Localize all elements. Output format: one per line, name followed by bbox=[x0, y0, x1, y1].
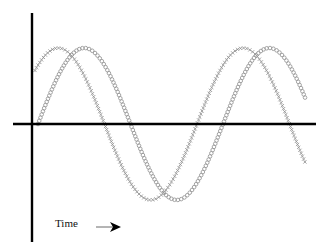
cross-marker bbox=[91, 92, 94, 95]
cross-marker bbox=[281, 104, 284, 107]
sine-wave-diagram bbox=[0, 0, 324, 251]
cross-marker bbox=[80, 69, 83, 72]
cross-marker bbox=[248, 48, 251, 51]
cross-marker bbox=[60, 47, 63, 50]
cross-marker bbox=[239, 47, 242, 50]
cross-marker bbox=[206, 95, 209, 98]
cross-marker bbox=[260, 60, 263, 63]
cross-marker bbox=[113, 149, 116, 152]
cross-marker bbox=[294, 137, 297, 140]
cross-marker bbox=[291, 131, 294, 134]
cross-marker bbox=[93, 98, 96, 101]
cross-marker bbox=[204, 101, 207, 104]
cross-marker bbox=[57, 46, 60, 49]
cross-marker bbox=[278, 98, 281, 101]
cross-marker bbox=[54, 47, 57, 50]
cross-marker bbox=[202, 106, 205, 109]
cross-marker bbox=[191, 133, 194, 136]
cross-marker bbox=[277, 95, 280, 98]
cross-marker bbox=[81, 72, 84, 75]
cross-marker bbox=[76, 63, 79, 66]
cross-marker bbox=[265, 69, 268, 72]
cross-marker bbox=[97, 107, 100, 110]
cross-marker bbox=[287, 119, 290, 122]
cross-marker bbox=[297, 146, 300, 149]
cross-marker bbox=[200, 109, 203, 112]
cross-marker bbox=[112, 146, 115, 149]
cross-marker bbox=[100, 116, 103, 119]
cross-marker bbox=[173, 175, 176, 178]
cross-marker bbox=[295, 140, 298, 143]
cross-marker bbox=[107, 134, 110, 137]
cross-marker bbox=[258, 58, 261, 61]
cross-marker bbox=[99, 113, 102, 116]
time-label: Time bbox=[55, 217, 78, 229]
cross-marker bbox=[185, 148, 188, 151]
cross-marker bbox=[166, 186, 169, 189]
cross-marker bbox=[245, 47, 248, 50]
cross-marker bbox=[280, 101, 283, 104]
cross-marker bbox=[290, 128, 293, 131]
cross-marker bbox=[198, 115, 201, 118]
cross-marker bbox=[268, 75, 271, 78]
cross-marker bbox=[289, 125, 292, 128]
cross-marker bbox=[183, 154, 186, 157]
cross-marker bbox=[190, 136, 193, 139]
cross-marker bbox=[242, 46, 245, 49]
cross-marker bbox=[170, 180, 173, 183]
cross-marker bbox=[148, 198, 151, 201]
cross-marker bbox=[194, 127, 197, 130]
time-arrow-icon bbox=[96, 222, 121, 232]
cross-marker bbox=[188, 142, 191, 145]
cross-marker bbox=[197, 118, 200, 121]
cross-marker bbox=[78, 66, 81, 69]
cross-marker bbox=[203, 103, 206, 106]
cross-marker bbox=[284, 113, 287, 116]
cross-marker bbox=[92, 95, 95, 98]
cross-marker bbox=[283, 110, 286, 113]
cross-marker bbox=[40, 58, 43, 61]
cross-marker bbox=[63, 48, 66, 51]
cross-marker bbox=[96, 104, 99, 107]
cross-marker bbox=[266, 72, 269, 75]
cross-marker bbox=[109, 137, 112, 140]
cross-marker bbox=[154, 197, 157, 200]
cross-marker bbox=[205, 98, 208, 101]
cross-marker bbox=[168, 183, 171, 186]
cross-marker bbox=[296, 143, 299, 146]
cross-marker bbox=[73, 58, 76, 61]
cross-marker bbox=[111, 143, 114, 146]
cross-marker bbox=[115, 152, 118, 155]
cross-marker bbox=[298, 149, 301, 152]
cross-marker bbox=[282, 107, 285, 110]
cross-marker bbox=[104, 125, 107, 128]
cross-marker bbox=[106, 131, 109, 134]
cross-marker bbox=[262, 63, 265, 66]
cross-marker bbox=[199, 112, 202, 115]
cross-marker bbox=[184, 151, 187, 154]
cross-marker bbox=[75, 60, 78, 63]
cross-marker bbox=[110, 140, 113, 143]
circle-marker bbox=[303, 96, 307, 100]
cross-marker bbox=[102, 119, 105, 122]
cross-marker bbox=[192, 130, 195, 133]
cross-marker bbox=[276, 92, 279, 95]
cross-marker bbox=[176, 169, 179, 172]
cross-marker bbox=[98, 110, 101, 113]
cross-marker bbox=[175, 172, 178, 175]
cross-marker bbox=[292, 134, 295, 137]
cross-marker bbox=[225, 58, 228, 61]
cross-marker bbox=[172, 178, 175, 181]
cross-marker bbox=[95, 101, 98, 104]
cross-marker bbox=[263, 66, 266, 69]
cross-marker bbox=[285, 116, 288, 119]
cross-marker bbox=[186, 145, 189, 148]
cross-marker bbox=[151, 198, 154, 201]
cross-marker bbox=[189, 139, 192, 142]
cross-marker bbox=[105, 128, 108, 131]
cross-marker bbox=[83, 74, 86, 77]
